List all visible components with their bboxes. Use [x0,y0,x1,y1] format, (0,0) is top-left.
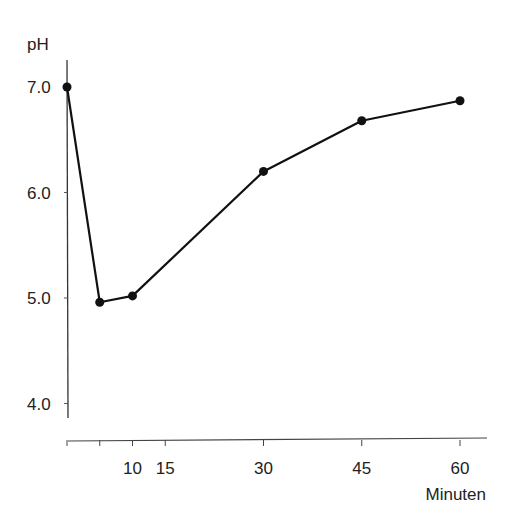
ph-line-chart: 4.05.06.07.0pH1015304560Minuten [0,0,511,527]
y-tick-label: 5.0 [27,289,51,308]
x-tick-label: 60 [451,459,470,478]
x-tick-label: 30 [254,459,273,478]
x-tick-label: 10 [123,459,142,478]
y-axis-line [67,60,68,418]
x-axis-title: Minuten [426,485,486,504]
y-tick-label: 7.0 [27,78,51,97]
axes [64,60,487,446]
x-tick-label: 45 [352,459,371,478]
x-tick-label: 15 [156,459,175,478]
data-point [259,167,268,176]
y-tick-label: 4.0 [27,395,51,414]
data-point [357,116,366,125]
data-point [456,96,465,105]
data-line [67,87,460,302]
x-axis-line [68,438,487,441]
y-tick-label: 6.0 [27,184,51,203]
data-series [63,83,465,307]
y-axis-title: pH [27,35,49,54]
data-point [95,298,104,307]
data-point [63,83,72,92]
data-point [128,291,137,300]
